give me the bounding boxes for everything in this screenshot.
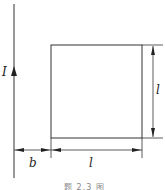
diagram-canvas xyxy=(0,0,165,190)
square-loop xyxy=(51,45,142,138)
current-arrow-icon xyxy=(11,66,17,76)
width-label: l xyxy=(89,157,93,169)
height-label: l xyxy=(156,84,160,96)
figure-caption: 题 2.3 图 xyxy=(64,184,105,190)
distance-label: b xyxy=(29,157,37,169)
current-label: I xyxy=(2,66,7,78)
